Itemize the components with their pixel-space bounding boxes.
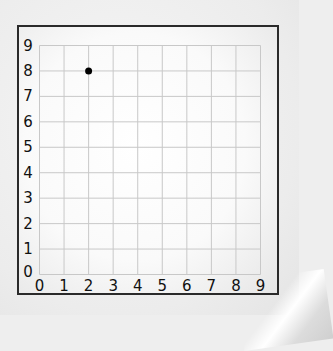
grid-lines bbox=[40, 46, 261, 275]
x-axis-ticks: 0123456789 bbox=[35, 277, 266, 295]
x-tick-label: 9 bbox=[256, 277, 266, 295]
x-tick-label: 0 bbox=[35, 277, 45, 295]
y-tick-label: 0 bbox=[23, 263, 33, 281]
x-tick-label: 3 bbox=[108, 277, 118, 295]
x-tick-label: 5 bbox=[158, 277, 168, 295]
x-tick-label: 6 bbox=[182, 277, 192, 295]
y-axis-ticks: 0123456789 bbox=[23, 37, 33, 281]
x-tick-label: 8 bbox=[231, 277, 241, 295]
y-tick-label: 9 bbox=[23, 37, 33, 55]
y-tick-label: 7 bbox=[23, 87, 33, 105]
data-point bbox=[85, 67, 92, 74]
x-tick-label: 7 bbox=[207, 277, 217, 295]
data-points bbox=[85, 67, 92, 74]
y-tick-label: 2 bbox=[23, 215, 33, 233]
y-tick-label: 5 bbox=[23, 138, 33, 156]
x-tick-label: 1 bbox=[59, 277, 69, 295]
y-tick-label: 3 bbox=[23, 189, 33, 207]
x-tick-label: 2 bbox=[84, 277, 94, 295]
x-tick-label: 4 bbox=[133, 277, 143, 295]
y-tick-label: 8 bbox=[23, 62, 33, 80]
y-tick-label: 4 bbox=[23, 164, 33, 182]
y-tick-label: 1 bbox=[23, 240, 33, 258]
y-tick-label: 6 bbox=[23, 113, 33, 131]
